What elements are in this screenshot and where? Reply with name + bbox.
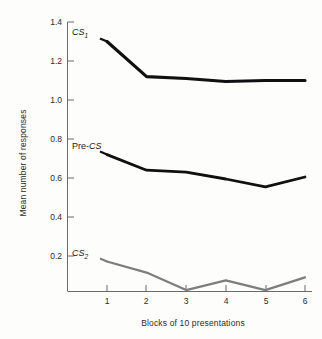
line-chart-plot bbox=[0, 0, 322, 339]
series-label-cs1-sub: 1 bbox=[85, 32, 89, 39]
x-tick-label-1: 1 bbox=[98, 296, 116, 306]
y-tick-label-1-4: 1.4 bbox=[36, 17, 62, 27]
x-tick-label-5: 5 bbox=[257, 296, 275, 306]
y-axis-ticks bbox=[68, 22, 75, 256]
y-tick-label-0-8: 0.8 bbox=[36, 134, 62, 144]
series-label-cs1: CS1 bbox=[72, 27, 88, 39]
series-label-cs2-sub: 2 bbox=[85, 253, 89, 260]
y-tick-label-1-2: 1.2 bbox=[36, 56, 62, 66]
cs1-leader-line bbox=[100, 39, 107, 42]
series-label-precs-text: CS bbox=[89, 141, 102, 151]
series-label-cs2-text: CS bbox=[72, 248, 85, 258]
series-line-cs1 bbox=[107, 42, 305, 82]
y-axis-title: Mean number of responses bbox=[18, 88, 28, 238]
y-tick-label-0-6: 0.6 bbox=[36, 173, 62, 183]
series-label-precs-prefix: Pre- bbox=[72, 141, 89, 151]
x-tick-label-2: 2 bbox=[137, 296, 155, 306]
series-label-cs2: CS2 bbox=[72, 248, 88, 260]
x-tick-label-3: 3 bbox=[177, 296, 195, 306]
series-line-precs bbox=[107, 155, 305, 187]
y-tick-label-1-0: 1.0 bbox=[36, 95, 62, 105]
figure-canvas: 1.4 1.2 1.0 0.8 0.6 0.4 0.2 1 2 3 4 5 6 … bbox=[0, 0, 322, 339]
series-label-cs1-text: CS bbox=[72, 27, 85, 37]
x-tick-label-4: 4 bbox=[217, 296, 235, 306]
x-axis-title: Blocks of 10 presentations bbox=[78, 318, 308, 328]
series-line-cs2 bbox=[107, 262, 305, 291]
y-tick-label-0-2: 0.2 bbox=[36, 251, 62, 261]
series-label-precs: Pre-CS bbox=[72, 141, 102, 151]
cs2-leader-line bbox=[100, 259, 107, 262]
precs-leader-line bbox=[100, 152, 107, 155]
y-tick-label-0-4: 0.4 bbox=[36, 212, 62, 222]
x-tick-label-6: 6 bbox=[296, 296, 314, 306]
